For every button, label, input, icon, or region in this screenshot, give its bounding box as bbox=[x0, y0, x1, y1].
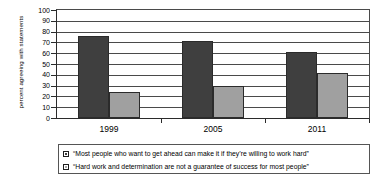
y-axis-tick-label: 70 bbox=[42, 39, 50, 46]
x-axis: 199920052011 bbox=[56, 119, 370, 139]
x-axis-tick-mark bbox=[265, 119, 266, 123]
bar-chart: percent agreeing with statements 0102030… bbox=[0, 0, 390, 180]
y-axis-tick-label: 40 bbox=[42, 71, 50, 78]
y-axis-tick-label: 10 bbox=[42, 104, 50, 111]
x-axis-tick-label: 2011 bbox=[265, 125, 369, 134]
legend-item-label: “Hard work and determination are not a g… bbox=[73, 163, 309, 171]
bar bbox=[213, 86, 244, 118]
bar bbox=[78, 36, 109, 118]
y-axis-tick-label: 100 bbox=[38, 7, 50, 14]
bars-layer bbox=[57, 10, 369, 118]
x-axis-tick-label: 2005 bbox=[161, 125, 265, 134]
bar bbox=[317, 73, 348, 118]
legend-item: “Hard work and determination are not a g… bbox=[63, 161, 365, 173]
bar bbox=[286, 52, 317, 118]
legend-swatch-icon bbox=[63, 151, 69, 157]
y-axis-tick-label: 30 bbox=[42, 82, 50, 89]
y-axis-tick-labels: 0102030405060708090100 bbox=[24, 0, 56, 128]
legend-swatch-icon bbox=[63, 164, 69, 170]
x-axis-tick-mark bbox=[161, 119, 162, 123]
x-axis-tick-label: 1999 bbox=[57, 125, 161, 134]
bar bbox=[109, 92, 140, 118]
x-axis-tick-mark bbox=[369, 119, 370, 123]
y-axis-tick-label: 60 bbox=[42, 50, 50, 57]
plot-area bbox=[56, 9, 370, 119]
legend-item: “Most people who want to get ahead can m… bbox=[63, 148, 365, 160]
y-axis-tick-label: 80 bbox=[42, 28, 50, 35]
y-axis-tick-label: 20 bbox=[42, 93, 50, 100]
chart-legend: “Most people who want to get ahead can m… bbox=[58, 144, 370, 174]
bar bbox=[182, 41, 213, 118]
legend-item-label: “Most people who want to get ahead can m… bbox=[73, 150, 309, 158]
y-axis-tick-label: 90 bbox=[42, 17, 50, 24]
y-axis-tick-label: 50 bbox=[42, 61, 50, 68]
y-axis-tick-label: 0 bbox=[46, 115, 50, 122]
